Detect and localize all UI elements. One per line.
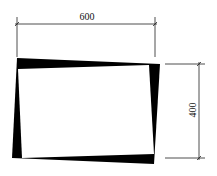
width-dimension — [15, 17, 157, 57]
height-dimension-label: 400 — [187, 103, 198, 118]
frame-inner — [18, 65, 154, 158]
width-dimension-label: 600 — [80, 11, 95, 22]
height-dimension — [165, 62, 205, 160]
frame-diagram: 600 400 — [0, 0, 217, 176]
